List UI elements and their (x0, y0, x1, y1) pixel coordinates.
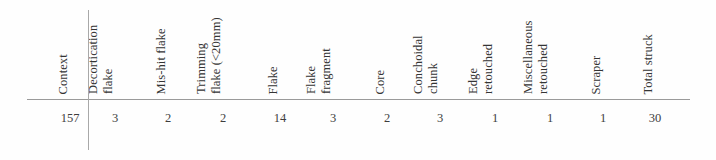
header-line-1: Trimming (194, 43, 208, 94)
header-line-1: Flake (304, 66, 318, 94)
column-header-label-conchoidal-chunk: Conchoidalchunk (411, 35, 440, 94)
header-line-2: flake (<20mm) (209, 17, 224, 94)
column-header-label-flake: Flake (266, 66, 281, 94)
column-header-label-total-struck: Total struck (641, 34, 656, 94)
header-line-2: retouched (536, 20, 551, 94)
header-line-1: Context (56, 54, 70, 94)
header-line-2: retouched (481, 44, 496, 94)
column-header-label-core: Core (373, 69, 388, 94)
table-header-row: ContextDecorticationflakeMis-hit flakeTr… (0, 0, 716, 99)
column-header-label-miscellaneous-retouched: Miscellaneousretouched (521, 20, 550, 94)
cell-miscellaneous-retouched: 1 (547, 108, 553, 128)
cell-decortication-flake: 3 (112, 108, 118, 128)
header-line-2: fragment (319, 48, 334, 94)
column-header-label-context: Context (56, 54, 71, 94)
header-line-1: Flake (266, 66, 280, 94)
header-line-1: Scraper (589, 55, 603, 94)
header-line-1: Edge (466, 68, 480, 94)
column-header-label-flake-fragment: Flakefragment (304, 48, 333, 94)
cell-edge-retouched: 1 (492, 108, 498, 128)
cell-context: 157 (61, 108, 80, 128)
artefact-counts-table: ContextDecorticationflakeMis-hit flakeTr… (0, 0, 716, 160)
cell-flake-fragment: 3 (330, 108, 336, 128)
cell-mis-hit-flake: 2 (165, 108, 171, 128)
column-header-label-mis-hit-flake: Mis-hit flake (154, 28, 169, 94)
cell-total-struck: 30 (649, 108, 662, 128)
column-header-label-edge-retouched: Edgeretouched (466, 44, 495, 94)
cell-core: 2 (384, 108, 390, 128)
header-line-2: flake (101, 25, 116, 94)
header-line-2: chunk (426, 35, 441, 94)
header-line-1: Miscellaneous (521, 20, 535, 94)
column-header-label-trimming-flake: Trimmingflake (<20mm) (194, 17, 223, 94)
header-line-1: Conchoidal (411, 35, 425, 94)
column-header-label-scraper: Scraper (589, 55, 604, 94)
header-divider-rule (27, 99, 690, 100)
header-line-1: Mis-hit flake (154, 28, 168, 94)
table-row: 1573221432311130 (0, 108, 716, 132)
header-line-1: Total struck (641, 34, 655, 94)
column-header-label-decortication-flake: Decorticationflake (86, 25, 115, 94)
cell-trimming-flake: 2 (220, 108, 226, 128)
cell-conchoidal-chunk: 3 (437, 108, 443, 128)
cell-scraper: 1 (600, 108, 606, 128)
cell-flake: 14 (274, 108, 287, 128)
header-line-1: Core (373, 69, 387, 94)
